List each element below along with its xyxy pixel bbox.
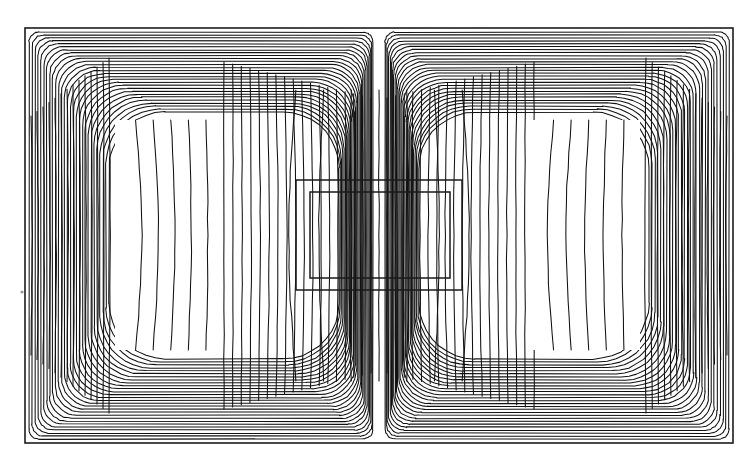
contour-line [379,90,380,381]
contour-line [224,62,225,409]
scan-speck [20,290,23,293]
contour-line [395,96,396,375]
magnetic-field-contour-svg [0,0,756,465]
contour-line [371,98,372,373]
left-coil-window [115,120,222,350]
figure-container [0,0,756,465]
scanned-page: the observer standing at B say. Thus per… [0,0,756,465]
